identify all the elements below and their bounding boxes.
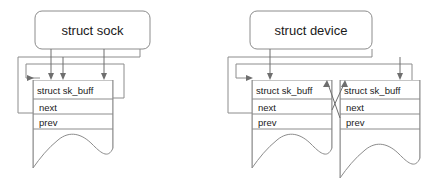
sock-skbuff-1-header: struct sk_buff [37, 85, 94, 96]
struct-device-label: struct device [275, 23, 348, 38]
sock-skbuff-1-field-prev: prev [39, 117, 58, 128]
device-arrowhead-2 [397, 73, 403, 80]
device-arrowhead-1 [267, 73, 273, 80]
sock-skbuff-1-field-next: next [39, 102, 57, 113]
sock-panel: struct sock [18, 11, 150, 170]
struct-sock-label: struct sock [61, 23, 124, 38]
diagram-canvas: struct sock [0, 0, 435, 187]
device-panel: struct device struct sk_b [228, 11, 420, 180]
sock-arrowhead-1 [48, 73, 54, 80]
sock-skbuff-1: struct sk_buff next prev [33, 80, 113, 170]
sock-arrowhead-3 [101, 73, 107, 80]
device-skbuff-2-header: struct sk_buff [344, 85, 401, 96]
sock-arrowhead-2 [60, 73, 66, 80]
device-skbuff-2-field-next: next [346, 102, 364, 113]
diagram-root: struct sock [0, 0, 435, 187]
device-skbuff-2-field-prev: prev [346, 117, 365, 128]
device-skbuff-1: struct sk_buff next prev [252, 80, 332, 170]
device-skbuff-1-field-prev: prev [258, 117, 277, 128]
device-skbuff-1-header: struct sk_buff [256, 85, 313, 96]
device-skbuff-1-field-next: next [258, 102, 276, 113]
device-skbuff-2: struct sk_buff next prev [340, 80, 420, 180]
